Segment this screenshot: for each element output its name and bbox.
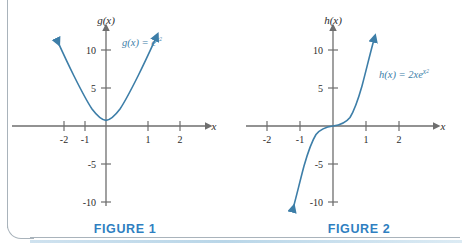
figure-1-curve-label-exp-sup: 2 — [159, 36, 162, 42]
figure-1-x-axis-label: x — [211, 120, 217, 132]
figure-2-curve-label-exp-sup: 2 — [426, 68, 429, 74]
figure-2-xtick-label-1: 1 — [364, 134, 369, 145]
figure-1-ytick-label--10: -10 — [83, 197, 96, 208]
figure-2-xtick-label--1: -1 — [296, 134, 304, 145]
figure-1-svg: g(x) x -2 -1 1 2 10 5 -5 -10 g(x) = ex2 — [0, 6, 234, 216]
figure-2-ytick-label-5: 5 — [318, 83, 323, 94]
figure-2-curve-label: h(x) = 2xex2 — [379, 67, 429, 82]
figure-1-ytick-label-5: 5 — [91, 83, 96, 94]
figure-2-curve-label-main: h(x) = 2xe — [379, 69, 423, 81]
figure-1-y-axis-label: g(x) — [97, 14, 115, 27]
figure-1-xtick-label-1: 1 — [146, 134, 151, 145]
figure-1-plot: g(x) x -2 -1 1 2 10 5 -5 -10 g(x) = ex2 — [0, 6, 234, 216]
figure-1-curve-label: g(x) = ex2 — [122, 35, 162, 50]
figure-1: g(x) x -2 -1 1 2 10 5 -5 -10 g(x) = ex2 … — [0, 0, 234, 251]
figure-2-svg: h(x) x -2 -1 1 2 10 5 -5 -10 h(x) = 2xex… — [234, 6, 468, 216]
figure-1-xtick-label--1: -1 — [81, 134, 89, 145]
figure-2-ytick-label--10: -10 — [310, 197, 323, 208]
figure-2-y-axis-label: h(x) — [324, 14, 342, 27]
figure-2-x-axis-label: x — [440, 120, 446, 132]
figure-2-ytick-label-10: 10 — [313, 45, 323, 56]
figure-2-ytick-label--5: -5 — [315, 159, 323, 170]
figure-2-xtick-label-2: 2 — [397, 134, 402, 145]
figure-2-caption: FIGURE 2 — [234, 222, 468, 236]
figure-2-xtick-label--2: -2 — [263, 134, 271, 145]
figure-1-xtick-label-2: 2 — [178, 134, 183, 145]
figure-1-curve-label-main: g(x) = e — [122, 37, 156, 49]
figure-1-ytick-label--5: -5 — [88, 159, 96, 170]
figure-1-ytick-label-10: 10 — [86, 45, 96, 56]
figure-2: h(x) x -2 -1 1 2 10 5 -5 -10 h(x) = 2xex… — [234, 0, 468, 251]
textbook-figure-page: g(x) x -2 -1 1 2 10 5 -5 -10 g(x) = ex2 … — [0, 0, 468, 251]
figure-2-plot: h(x) x -2 -1 1 2 10 5 -5 -10 h(x) = 2xex… — [234, 6, 468, 216]
figure-1-xtick-label--2: -2 — [60, 134, 68, 145]
figure-1-caption: FIGURE 1 — [0, 222, 242, 236]
